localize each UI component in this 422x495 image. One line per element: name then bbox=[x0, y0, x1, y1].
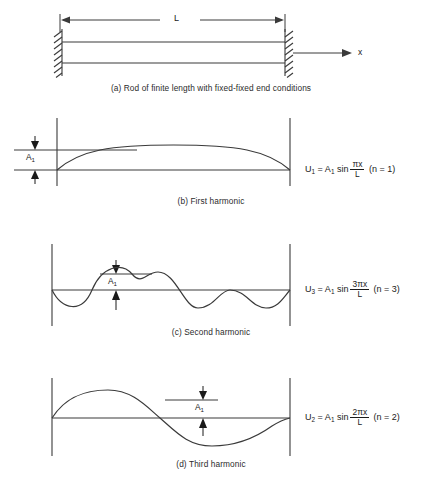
panel-third-harmonic: A1 U2 = A1 sin2πxL (n = 2) (d) Third har… bbox=[0, 356, 422, 495]
equation-denominator: L bbox=[350, 289, 369, 299]
amplitude-subscript: 1 bbox=[32, 156, 35, 163]
equation-denominator: L bbox=[350, 417, 369, 427]
equation-sin: sin bbox=[337, 284, 349, 294]
equation-first-harmonic: U1 = A1 sinπxL (n = 1) bbox=[305, 160, 395, 179]
amplitude-label: A1 bbox=[26, 152, 35, 163]
panel-second-harmonic: A1 U3 = A1 sin3πxL (n = 3) (c) Second ha… bbox=[0, 228, 422, 340]
equation-equals: = bbox=[318, 164, 323, 174]
mode-shape-curve-n1 bbox=[57, 145, 290, 170]
panel-c-caption: (c) Second harmonic bbox=[0, 327, 422, 337]
equation-third-harmonic: U2 = A1 sin2πxL (n = 2) bbox=[305, 408, 400, 427]
amplitude-subscript: 1 bbox=[201, 406, 204, 413]
equation-lhs-sub: 1 bbox=[312, 168, 316, 175]
fixed-support-right bbox=[285, 29, 293, 78]
equation-lhs-sub: 3 bbox=[312, 288, 316, 295]
panel-a-caption: (a) Rod of finite length with fixed-fixe… bbox=[0, 83, 422, 93]
boundary-lines bbox=[52, 244, 290, 326]
equation-numerator: 3πx bbox=[350, 280, 369, 289]
equation-mode-note: (n = 2) bbox=[374, 412, 400, 422]
equation-equals: = bbox=[318, 284, 323, 294]
equation-mode-note: (n = 3) bbox=[374, 284, 400, 294]
equation-lhs-sub: 2 bbox=[312, 416, 316, 423]
equation-fraction: 3πxL bbox=[350, 280, 369, 299]
panel-rod: L x (a) Rod of finite length with fixed-… bbox=[0, 0, 422, 105]
fixed-support-left bbox=[54, 29, 62, 78]
length-label: L bbox=[174, 13, 179, 23]
equation-denominator: L bbox=[350, 169, 364, 179]
x-axis-label: x bbox=[358, 47, 362, 57]
equation-mode-note: (n = 1) bbox=[369, 164, 395, 174]
dimension-line-L bbox=[60, 14, 285, 32]
equation-fraction: 2πxL bbox=[350, 408, 369, 427]
panel-b-caption: (b) First harmonic bbox=[0, 196, 422, 206]
rod-body bbox=[62, 42, 285, 63]
equation-second-harmonic: U3 = A1 sin3πxL (n = 3) bbox=[305, 280, 400, 299]
amplitude-label: A1 bbox=[195, 402, 204, 413]
equation-amplitude-sub: 1 bbox=[331, 288, 335, 295]
equation-equals: = bbox=[318, 412, 323, 422]
panel-first-harmonic: A1 U1 = A1 sinπxL (n = 1) (b) First harm… bbox=[0, 108, 422, 213]
mode-shape-curve-n3 bbox=[52, 267, 290, 308]
equation-amplitude-sub: 1 bbox=[331, 168, 335, 175]
equation-numerator: 2πx bbox=[350, 408, 369, 417]
equation-amplitude-sub: 1 bbox=[331, 416, 335, 423]
amplitude-subscript: 1 bbox=[114, 280, 117, 287]
amplitude-label: A1 bbox=[108, 276, 117, 287]
equation-sin: sin bbox=[337, 164, 349, 174]
equation-numerator: πx bbox=[350, 160, 364, 169]
boundary-lines bbox=[52, 378, 290, 456]
equation-fraction: πxL bbox=[350, 160, 364, 179]
panel-d-caption: (d) Third harmonic bbox=[0, 459, 422, 469]
x-axis-arrow bbox=[293, 49, 352, 57]
equation-sin: sin bbox=[337, 412, 349, 422]
